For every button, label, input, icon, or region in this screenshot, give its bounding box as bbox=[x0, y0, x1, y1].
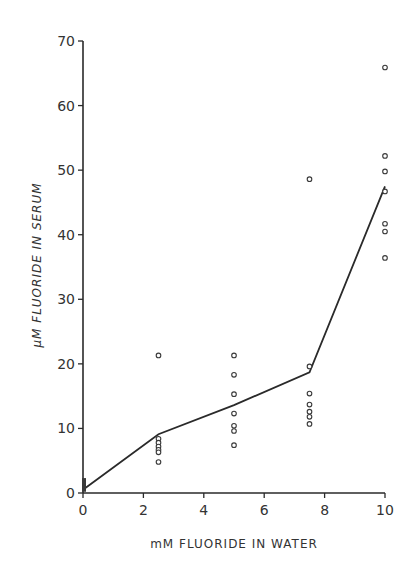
data-point bbox=[307, 415, 312, 420]
axes: 0246810010203040506070 bbox=[57, 33, 394, 518]
data-point bbox=[82, 478, 86, 482]
data-point bbox=[307, 177, 312, 182]
y-tick-label: 0 bbox=[66, 485, 75, 501]
y-tick-label: 10 bbox=[57, 420, 75, 436]
data-point bbox=[232, 424, 237, 429]
data-point bbox=[307, 422, 312, 427]
x-tick-label: 0 bbox=[79, 502, 88, 518]
y-tick-label: 50 bbox=[57, 162, 75, 178]
data-point bbox=[232, 411, 237, 416]
data-point bbox=[156, 353, 161, 358]
data-point bbox=[383, 189, 388, 194]
data-point bbox=[232, 443, 237, 448]
data-point bbox=[383, 154, 388, 159]
x-tick-label: 8 bbox=[320, 502, 329, 518]
y-tick-label: 60 bbox=[57, 98, 75, 114]
x-tick-label: 6 bbox=[260, 502, 269, 518]
data-point bbox=[307, 402, 312, 407]
data-point bbox=[232, 353, 237, 358]
data-point bbox=[156, 460, 161, 465]
data-point bbox=[307, 364, 312, 369]
data-point bbox=[383, 256, 388, 261]
y-tick-label: 40 bbox=[57, 227, 75, 243]
data-point bbox=[307, 391, 312, 396]
data-points bbox=[82, 65, 387, 492]
data-point bbox=[307, 409, 312, 414]
y-tick-label: 70 bbox=[57, 33, 75, 49]
data-point bbox=[383, 229, 388, 234]
data-point bbox=[156, 450, 161, 455]
data-point bbox=[232, 429, 237, 434]
data-point bbox=[232, 392, 237, 397]
chart: 0246810010203040506070 mM FLUORIDE IN WA… bbox=[0, 0, 410, 572]
x-axis-title: mM FLUORIDE IN WATER bbox=[150, 537, 318, 551]
y-axis-title: μM FLUORIDE IN SERUM bbox=[30, 182, 44, 348]
data-point bbox=[383, 169, 388, 174]
x-tick-label: 2 bbox=[139, 502, 148, 518]
x-tick-label: 4 bbox=[199, 502, 208, 518]
y-tick-label: 20 bbox=[57, 356, 75, 372]
data-point bbox=[383, 221, 388, 226]
data-point bbox=[383, 65, 388, 70]
x-tick-label: 10 bbox=[376, 502, 394, 518]
data-point bbox=[232, 373, 237, 378]
y-tick-label: 30 bbox=[57, 291, 75, 307]
